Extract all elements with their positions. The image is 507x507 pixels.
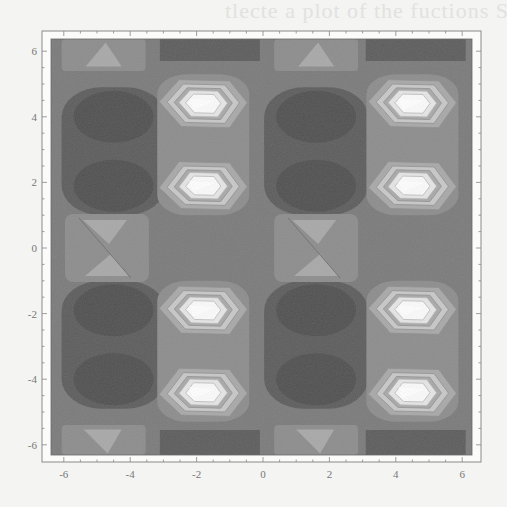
- contour-plot: -6-4-20246 6420-2-4-6: [0, 0, 507, 507]
- y-tick-label: 0: [32, 242, 38, 254]
- y-tick-label: -4: [28, 373, 38, 385]
- y-tick-label: -6: [28, 439, 38, 451]
- x-tick-label: 0: [260, 468, 266, 480]
- x-tick-label: -2: [192, 468, 201, 480]
- x-tick-label: -6: [59, 468, 69, 480]
- plot-area: [51, 39, 472, 455]
- x-tick-label: 4: [393, 468, 399, 480]
- x-axis-tick-labels: -6-4-20246: [59, 468, 465, 480]
- x-tick-label: 6: [459, 468, 465, 480]
- y-axis-tick-labels: 6420-2-4-6: [28, 45, 38, 451]
- y-tick-label: 4: [32, 111, 38, 123]
- x-tick-label: -4: [126, 468, 136, 480]
- y-tick-label: 6: [32, 45, 38, 57]
- scan-grain: [51, 39, 472, 455]
- y-tick-label: -2: [28, 308, 37, 320]
- x-tick-label: 2: [327, 468, 333, 480]
- y-tick-label: 2: [32, 176, 38, 188]
